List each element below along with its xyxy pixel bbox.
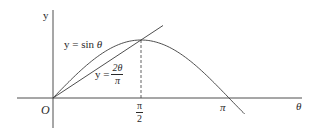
tick-label-pi: π [220, 102, 226, 113]
line-label-prefix: y = [95, 69, 109, 80]
origin-label: O [41, 104, 50, 116]
line-label-denominator: π [115, 75, 120, 86]
sine-curve [53, 40, 245, 114]
line-label-numerator: 2θ [111, 63, 123, 75]
line-label-fraction: 2θ π [111, 63, 123, 86]
sine-inequality-diagram: y θ O π π 2 y = sin θ y = 2θ π [0, 0, 316, 131]
x-axis-label: θ [296, 101, 301, 112]
line-label: y = 2θ π [95, 63, 123, 86]
sine-label-prefix: y = sin [64, 38, 97, 50]
tick-label-half-pi: π 2 [136, 101, 143, 124]
sine-label-variable: θ [97, 38, 102, 50]
sine-curve-label: y = sin θ [64, 39, 102, 50]
line-2theta-over-pi [53, 26, 163, 99]
tick-half-pi-denominator: 2 [137, 113, 142, 124]
y-axis-label: y [43, 10, 49, 21]
tick-half-pi-numerator: π [136, 101, 143, 113]
